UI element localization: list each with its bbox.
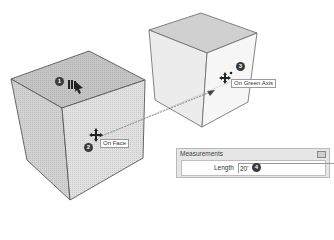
length-label: Length <box>214 164 234 171</box>
step-badge-3: 3 <box>236 62 245 71</box>
panel-collapse-button[interactable] <box>317 151 326 158</box>
measurements-panel: Measurements Length 4 <box>176 148 330 178</box>
selected-cube[interactable] <box>11 51 145 200</box>
inference-tooltip-on-face: On Face <box>100 139 129 148</box>
panel-title: Measurements <box>180 150 223 157</box>
inference-tooltip-on-green-axis: On Green Axis <box>231 79 276 88</box>
step-badge-2: 2 <box>84 143 93 152</box>
measurements-body: Length 4 <box>181 160 326 176</box>
step-badge-1: 1 <box>55 77 64 86</box>
step-badge-4: 4 <box>252 163 261 172</box>
